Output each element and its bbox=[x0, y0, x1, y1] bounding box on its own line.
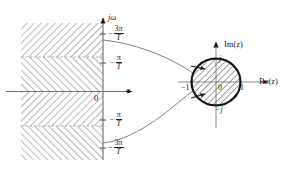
s-plane-sigma-label: σ bbox=[126, 86, 130, 95]
z-plane-j-label: j bbox=[219, 55, 221, 63]
z-plane-minus-one-label: −1 bbox=[181, 84, 190, 92]
z-plane-im-axis-label: Im(z) bbox=[224, 40, 243, 49]
z-plane-minus-j-label: −j bbox=[215, 106, 223, 114]
diagram-svg bbox=[0, 0, 290, 174]
z-plane-one-label: 1 bbox=[240, 84, 244, 92]
unit-circle bbox=[191, 59, 241, 106]
s-plane-tick-pi-over-T-lower: −πT bbox=[110, 111, 122, 128]
fraction-denominator: T bbox=[116, 120, 122, 128]
fraction-denominator: T bbox=[114, 148, 124, 156]
z-plane-origin-label: 0 bbox=[218, 84, 222, 92]
s-plane-tick-3pi-over-T-upper: −3πT bbox=[108, 25, 124, 42]
z-plane-re-axis-label: Re(z) bbox=[259, 77, 278, 86]
fraction-denominator: T bbox=[114, 34, 124, 42]
s-plane-tick-pi-over-T-upper: −πT bbox=[110, 54, 122, 71]
s-plane-tick-3pi-over-T-lower: −3πT bbox=[108, 139, 124, 156]
figure-canvas: jω −3πT −πT 0 σ −πT −3πT Im(z) j −j −1 0… bbox=[0, 0, 290, 174]
fraction-denominator: T bbox=[116, 63, 122, 71]
s-plane-jomega-label: jω bbox=[108, 13, 116, 22]
s-plane-origin-label: 0 bbox=[94, 94, 98, 103]
